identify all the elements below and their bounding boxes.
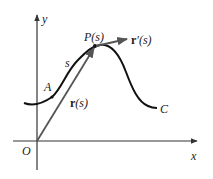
position-vector-label-s: (s) — [75, 96, 88, 110]
y-axis-label: y — [41, 12, 48, 26]
x-axis-label: x — [190, 149, 197, 163]
arc-length-label: s — [65, 56, 70, 70]
point-a-marker — [50, 95, 53, 98]
curve-c-label: C — [160, 102, 169, 116]
point-a-label: A — [43, 80, 52, 94]
arc-length-diagram: y x O A s P(s) C r(s) r′(s) — [0, 0, 213, 179]
point-p-label: P(s) — [83, 30, 104, 44]
position-vector-label: r(s) — [70, 96, 88, 110]
tangent-vector-label-s: ′(s) — [136, 33, 151, 47]
origin-label: O — [22, 144, 31, 158]
tangent-vector-label: r′(s) — [131, 33, 152, 47]
